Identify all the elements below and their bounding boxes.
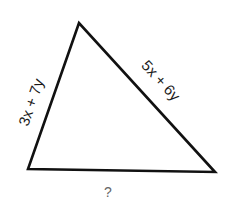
left-side-label: 3x + 7y [15, 76, 47, 128]
bottom-side-label: ? [104, 184, 112, 200]
triangle [28, 23, 215, 172]
triangle-diagram: 3x + 7y 5x + 6y ? [0, 0, 228, 210]
